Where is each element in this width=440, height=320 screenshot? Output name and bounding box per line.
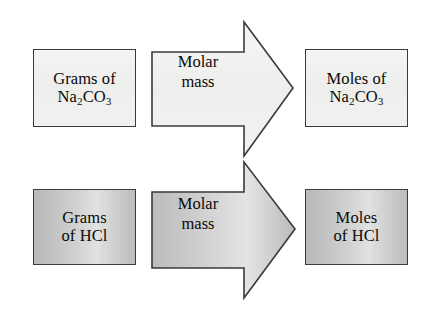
arrow-molar-mass-na2co3: Molar mass: [148, 16, 298, 164]
node-grams-na2co3-label: Grams of Na2CO3: [51, 70, 118, 107]
arrow-molar-mass-hcl: Molar mass: [148, 156, 298, 306]
node-grams-hcl: Grams of HCl: [33, 189, 136, 265]
node-moles-hcl-label: Moles of HCl: [332, 209, 382, 246]
node-grams-hcl-label: Grams of HCl: [60, 209, 110, 246]
subscript-3: 3: [106, 95, 112, 107]
arrow-label-molar-mass-top: Molar mass: [152, 52, 244, 92]
node-moles-na2co3: Moles of Na2CO3: [305, 49, 408, 127]
diagram-canvas: Grams of Na2CO3 Molar mass Moles of Na2C…: [0, 0, 440, 320]
subscript-3: 3: [378, 95, 384, 107]
node-moles-hcl: Moles of HCl: [305, 189, 408, 265]
node-grams-na2co3: Grams of Na2CO3: [33, 49, 136, 127]
arrow-label-molar-mass-bottom: Molar mass: [152, 194, 244, 234]
node-moles-na2co3-label: Moles of Na2CO3: [325, 70, 389, 107]
